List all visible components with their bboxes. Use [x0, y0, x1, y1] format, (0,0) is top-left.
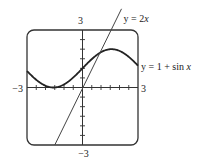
legend-label-sine: y = 1 + sin x: [141, 61, 191, 72]
x-tick-label-min: −3: [12, 83, 23, 94]
legend-label-sine-prefix: y = 1 + sin: [141, 61, 186, 72]
legend-label-line: y = 2x: [124, 13, 150, 24]
chart: −3 3 3 −3 y = 1 + sin x y = 2x: [0, 0, 209, 160]
legend-label-sine-var: x: [185, 61, 191, 72]
x-tick-label-max: 3: [141, 83, 146, 94]
series-line-2x: [55, 9, 122, 145]
legend-label-line-prefix: y = 2: [124, 13, 145, 24]
legend-label-line-var: x: [143, 13, 149, 24]
y-tick-label-max: 3: [78, 15, 83, 26]
y-tick-label-min: −3: [78, 148, 89, 159]
